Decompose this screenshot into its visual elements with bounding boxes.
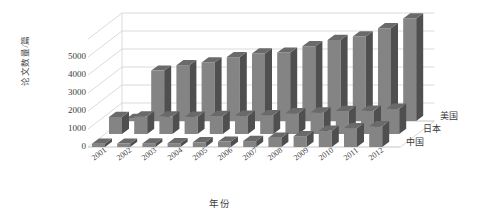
bar-front-1-4 [210, 116, 223, 134]
bar-front-2-11 [369, 126, 382, 147]
bar-front-1-5 [235, 116, 248, 134]
x-axis-title-label: 年份 [209, 196, 231, 210]
bar-front-1-6 [260, 115, 273, 134]
bar-front-1-3 [185, 117, 198, 134]
bar-front-1-1 [134, 116, 147, 134]
chart-3d-bar: 论文数量/篇 500040003000200010000 20012002200… [0, 0, 487, 222]
series-label-0: 美国 [440, 109, 458, 122]
bar-front-1-2 [159, 116, 172, 134]
bar-front-1-0 [109, 117, 122, 134]
bar-side-1-11 [399, 104, 406, 134]
bar-front-1-7 [285, 113, 298, 134]
series-label-1: 日本 [423, 122, 441, 135]
bar-front-2-10 [344, 128, 357, 147]
x-axis-title: 年份 [0, 196, 487, 210]
bar-layer [0, 0, 487, 222]
bar-side-0-11 [416, 13, 423, 121]
series-label-2: 中国 [406, 135, 424, 148]
